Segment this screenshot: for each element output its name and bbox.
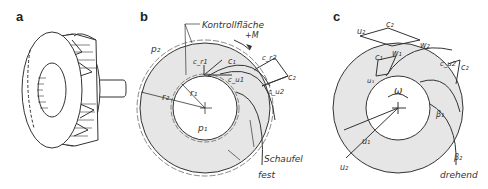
label-cr1: c_r1	[193, 58, 208, 66]
label-u2: u₂	[340, 163, 349, 172]
label-c2-top: c₂	[386, 20, 394, 29]
label-c1: c₁	[228, 57, 236, 66]
label-u1: u₁	[362, 137, 370, 146]
label-c2: c₂	[288, 73, 296, 82]
label-u1-top: u₁	[367, 77, 374, 85]
label-fest: fest	[258, 170, 275, 180]
label-drehend: drehend	[440, 170, 478, 180]
label-moment: +M	[245, 31, 259, 40]
label-beta2: β₂	[453, 153, 463, 162]
label-cu1: c_u1	[228, 76, 244, 84]
label-cr2: c_r2	[262, 54, 277, 62]
label-kontrollflaeche: Kontrollfläche	[202, 20, 265, 30]
label-cu2: c_u2	[268, 88, 285, 96]
label-u2-top: u₂	[357, 27, 366, 36]
label-r1: r₁	[190, 88, 198, 98]
label-beta1: β₁	[435, 110, 444, 119]
label-schaufel: Schaufel	[264, 154, 303, 164]
label-c2-right: c₂	[461, 63, 469, 72]
label-w2: w₂	[420, 41, 431, 50]
impeller-perspective	[22, 32, 126, 148]
label-omega: ω	[394, 85, 402, 96]
label-r2: r₂	[162, 92, 170, 102]
label-w1: w₁	[392, 49, 402, 58]
label-cu2: c_u2	[440, 60, 457, 68]
label-c1: c₁	[375, 53, 383, 62]
label-p1: p₁	[197, 123, 208, 133]
label-p2: p₂	[150, 44, 161, 54]
diagram-canvas: Kontrollfläche +M p₂ r₂ r₁ p₁ c_r1 c₁ c_…	[0, 0, 488, 189]
